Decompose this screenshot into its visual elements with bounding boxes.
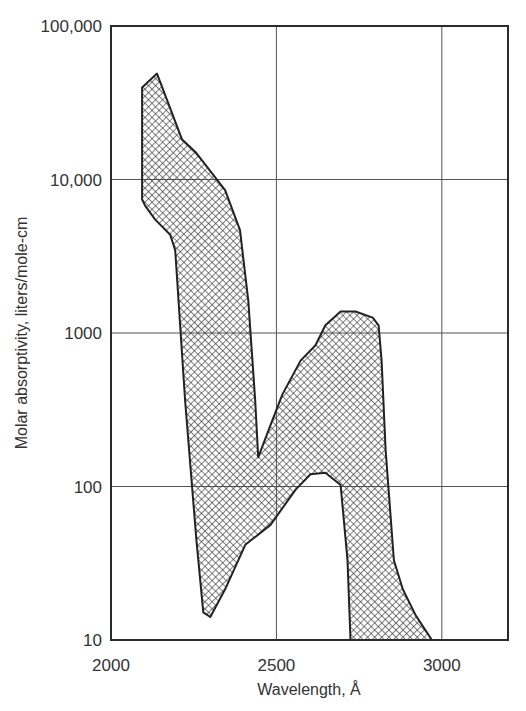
x-tick-label: 2000 — [92, 656, 130, 675]
x-axis-title: Wavelength, Å — [257, 680, 361, 698]
x-tick-label: 2500 — [258, 656, 296, 675]
y-tick-label: 100 — [74, 478, 102, 497]
y-tick-label: 1000 — [64, 324, 102, 343]
x-axis-tick-labels: 200025003000 — [92, 656, 461, 675]
y-tick-label: 10 — [83, 631, 102, 650]
x-tick-label: 3000 — [423, 656, 461, 675]
y-tick-label: 10,000 — [50, 171, 102, 190]
y-axis-tick-labels: 10100100010,000100,000 — [41, 17, 102, 650]
y-tick-label: 100,000 — [41, 17, 102, 36]
absorption-band-area — [142, 74, 432, 640]
y-axis-title: Molar absorptivity, liters/mole-cm — [13, 217, 30, 450]
absorptivity-chart: 10100100010,000100,000 200025003000 Wave… — [0, 0, 526, 711]
